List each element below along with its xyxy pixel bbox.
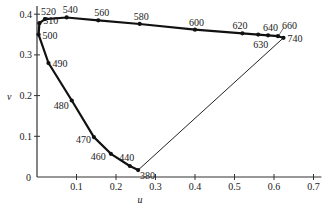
wavelength-label: 460	[91, 151, 106, 162]
wavelength-label: 640	[263, 22, 278, 33]
wavelength-label: 500	[43, 30, 58, 41]
wavelength-label: 520	[41, 6, 56, 17]
x-axis-label: u	[138, 194, 143, 205]
x-tick-label: 0.1	[70, 181, 83, 192]
chart-canvas: 0.10.20.30.40.50.60.70.10.20.30.40vu 380…	[0, 0, 325, 210]
wavelength-marker	[193, 28, 197, 32]
wavelength-label: 660	[282, 20, 297, 31]
origin-label: 0	[26, 172, 31, 183]
wavelength-marker	[281, 36, 285, 40]
purple-boundary-line	[138, 38, 283, 170]
x-tick-label: 0.3	[149, 181, 162, 192]
wavelength-label: 580	[134, 11, 149, 22]
wavelength-marker	[37, 21, 41, 25]
wavelength-marker	[256, 32, 260, 36]
wavelength-marker	[109, 152, 113, 156]
wavelength-label: 480	[54, 100, 69, 111]
wavelength-marker	[138, 22, 142, 26]
wavelength-label: 600	[189, 17, 204, 28]
wavelength-marker	[266, 33, 270, 37]
wavelength-marker	[65, 15, 69, 19]
wavelength-marker	[92, 135, 96, 139]
wavelength-label: 540	[63, 4, 78, 15]
wavelength-label: 630	[253, 39, 268, 50]
x-tick-label: 0.2	[110, 181, 123, 192]
wavelength-label: 470	[76, 134, 91, 145]
x-tick-label: 0.6	[268, 181, 281, 192]
wavelength-label: 490	[52, 58, 67, 69]
locus-curve	[39, 18, 284, 171]
wavelength-labels: 3804404604704804905005105205405605806006…	[41, 4, 303, 181]
wavelength-label: 560	[94, 7, 109, 18]
x-tick-label: 0.7	[307, 181, 320, 192]
x-tick-label: 0.4	[189, 181, 202, 192]
y-axis-label: v	[7, 91, 12, 102]
line-of-purples	[138, 38, 283, 170]
wavelength-marker	[96, 18, 100, 22]
y-tick-label: 0.2	[20, 90, 33, 101]
wavelength-label: 740	[287, 33, 302, 44]
y-tick-label: 0.3	[20, 49, 33, 60]
wavelength-marker	[240, 31, 244, 35]
wavelength-marker	[70, 98, 74, 102]
cie-uv-chromaticity-chart: 0.10.20.30.40.50.60.70.10.20.30.40vu 380…	[0, 0, 325, 210]
y-tick-label: 0.4	[20, 9, 33, 20]
wavelength-label: 440	[119, 152, 134, 163]
wavelength-marker	[46, 61, 50, 65]
wavelength-marker	[36, 32, 40, 36]
x-tick-label: 0.5	[228, 181, 241, 192]
wavelength-label: 380	[140, 170, 155, 181]
wavelength-label: 620	[232, 20, 247, 31]
wavelength-marker	[128, 164, 132, 168]
y-tick-label: 0.1	[20, 131, 33, 142]
